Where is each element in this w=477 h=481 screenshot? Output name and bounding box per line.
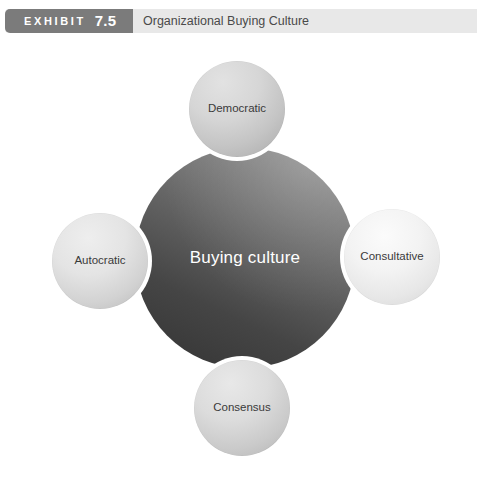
- node-democratic-label: Democratic: [208, 103, 266, 115]
- exhibit-label: EXHIBIT: [22, 16, 86, 27]
- exhibit-number: 7.5: [95, 13, 117, 28]
- buying-culture-diagram: Buying culture Democratic Autocratic Con…: [0, 33, 477, 481]
- node-autocratic-surface: Autocratic: [52, 213, 148, 309]
- exhibit-header: EXHIBIT 7.5 Organizational Buying Cultur…: [0, 9, 477, 33]
- node-autocratic-label: Autocratic: [74, 255, 125, 267]
- node-consensus-label: Consensus: [213, 402, 271, 414]
- node-consensus: Consensus: [190, 356, 294, 460]
- node-democratic: Democratic: [185, 57, 289, 161]
- node-democratic-surface: Democratic: [189, 61, 285, 157]
- exhibit-title: Organizational Buying Culture: [143, 9, 309, 33]
- node-consultative-label: Consultative: [360, 251, 423, 263]
- core-circle: Buying culture: [135, 148, 355, 368]
- core-circle-label: Buying culture: [190, 249, 301, 266]
- node-autocratic: Autocratic: [48, 209, 152, 313]
- node-consultative-surface: Consultative: [344, 209, 440, 305]
- exhibit-badge: EXHIBIT 7.5: [5, 9, 133, 33]
- node-consensus-surface: Consensus: [194, 360, 290, 456]
- node-consultative: Consultative: [340, 205, 444, 309]
